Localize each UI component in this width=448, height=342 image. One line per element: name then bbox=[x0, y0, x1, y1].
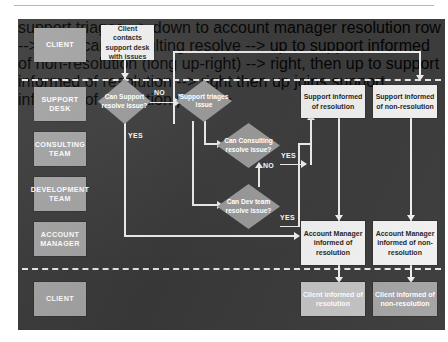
decision-can-consulting-resolve[interactable]: Can Consulting resolve issue? bbox=[217, 123, 280, 168]
process-support-informed-resolution[interactable]: Support informed of resolution bbox=[301, 85, 365, 118]
process-label: Support informed of non-resolution bbox=[375, 92, 435, 110]
connector-support-res-to-am-res bbox=[338, 118, 340, 221]
decision-label: Can Dev team resolve issue? bbox=[217, 198, 280, 214]
lane-label-text: CLIENT bbox=[46, 294, 74, 303]
connector-triage-to-consulting-vert bbox=[204, 121, 206, 144]
arrow-consulting-yes bbox=[301, 160, 307, 168]
lane-divider-am-client bbox=[22, 268, 441, 270]
process-label: Support informed of resolution bbox=[303, 92, 363, 110]
edge-label-support-no: NO bbox=[154, 89, 165, 96]
decision-label: Can Consulting resolve issue? bbox=[217, 137, 280, 153]
lane-label-text: CONSULTING TEAM bbox=[35, 140, 85, 158]
lane-label-text: ACCOUNT MANAGER bbox=[40, 230, 80, 248]
lane-label-client-bottom: CLIENT bbox=[34, 282, 86, 316]
process-client-informed-non-resolution[interactable]: Client informed of non-resolution bbox=[373, 282, 437, 316]
decision-support-triages[interactable]: Support triages issue bbox=[176, 80, 232, 122]
process-am-informed-resolution[interactable]: Account Manager informed of resolution bbox=[301, 221, 365, 265]
lane-label-development-team: DEVELOPMENT TEAM bbox=[34, 177, 86, 211]
process-support-informed-non-resolution[interactable]: Support informed of non-resolution bbox=[373, 85, 437, 118]
process-client-informed-resolution[interactable]: Client informed of resolution bbox=[301, 282, 365, 316]
connector-consulting-yes-up bbox=[310, 119, 312, 165]
decision-label: Can Support resolve issue? bbox=[98, 93, 151, 109]
connector-support-yes-horz bbox=[124, 235, 298, 237]
connector-consulting-no-down bbox=[419, 51, 421, 78]
connector-dev-yes-join bbox=[298, 143, 310, 145]
connector-support-nonres-to-am-nonres bbox=[410, 118, 412, 221]
arrow-support-yes-to-am bbox=[294, 232, 300, 240]
process-client-contacts[interactable]: Client contacts support desk with issues bbox=[101, 25, 154, 60]
decision-label: Support triages issue bbox=[176, 93, 232, 109]
connector-consulting-no-vert bbox=[173, 51, 175, 124]
process-am-informed-non-resolution[interactable]: Account Manager informed of non-resoluti… bbox=[373, 221, 437, 265]
lane-label-text: DEVELOPMENT TEAM bbox=[31, 185, 90, 203]
process-label: Client informed of non-resolution bbox=[375, 290, 435, 308]
process-label: Client informed of resolution bbox=[303, 290, 363, 308]
top-rule-divider bbox=[14, 5, 434, 6]
connector-triage-to-dev-vert bbox=[192, 121, 194, 205]
lane-label-text: CLIENT bbox=[46, 40, 74, 49]
lane-label-account-manager: ACCOUNT MANAGER bbox=[34, 222, 86, 256]
lane-label-client-top: CLIENT bbox=[34, 28, 86, 62]
arrow-consulting-no-to-support-nonres bbox=[416, 75, 424, 81]
process-label: Client contacts support desk with issues bbox=[103, 24, 152, 61]
connector-consulting-no-horz bbox=[173, 51, 421, 53]
edge-label-dev-yes: YES bbox=[280, 214, 295, 221]
decision-can-support-resolve[interactable]: Can Support resolve issue? bbox=[98, 79, 151, 124]
diagram-page: CLIENT SUPPORT DESK CONSULTING TEAM DEVE… bbox=[0, 0, 448, 342]
edge-label-support-yes: YES bbox=[128, 132, 143, 139]
decision-can-dev-resolve[interactable]: Can Dev team resolve issue? bbox=[217, 184, 280, 229]
lane-label-support-desk: SUPPORT DESK bbox=[34, 87, 86, 121]
connector-dev-yes-horz bbox=[280, 226, 300, 228]
connector-dev-yes-vert bbox=[298, 143, 300, 227]
flowchart-panel: CLIENT SUPPORT DESK CONSULTING TEAM DEVE… bbox=[18, 19, 445, 330]
process-label: Account Manager informed of non-resoluti… bbox=[375, 229, 435, 257]
edge-label-consulting-yes: YES bbox=[281, 152, 296, 159]
process-label: Account Manager informed of resolution bbox=[303, 229, 363, 257]
connector-support-yes-vert bbox=[124, 121, 126, 236]
lane-label-consulting-team: CONSULTING TEAM bbox=[34, 132, 86, 166]
lane-label-text: SUPPORT DESK bbox=[41, 95, 78, 113]
